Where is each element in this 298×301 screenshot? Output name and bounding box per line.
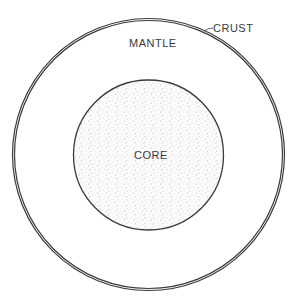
crust-label: CRUST	[213, 22, 253, 34]
crust-leader-line	[204, 28, 213, 31]
core-label: CORE	[134, 149, 168, 161]
mantle-label: MANTLE	[129, 37, 177, 49]
